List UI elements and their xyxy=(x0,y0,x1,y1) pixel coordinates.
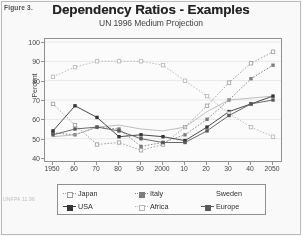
legend-item-italy[interactable]: Italy xyxy=(135,189,201,198)
legend-item-japan[interactable]: Japan xyxy=(63,189,135,198)
series-marker-italy xyxy=(249,77,252,80)
legend-marker xyxy=(139,205,145,211)
chart-subtitle: UN 1996 Medium Projection xyxy=(0,18,302,28)
series-marker-europe xyxy=(51,133,54,136)
series-marker-usa xyxy=(139,133,142,136)
series-marker-usa xyxy=(117,135,120,138)
x-tick-mark xyxy=(250,162,251,165)
y-tick-label: 60 xyxy=(32,116,40,123)
x-tick-label: 40 xyxy=(246,165,254,172)
series-marker-japan xyxy=(227,81,230,84)
legend-row-bottom: USAAfricaEurope xyxy=(63,200,260,213)
series-marker-italy xyxy=(183,133,186,136)
y-tick-mark xyxy=(41,42,44,43)
x-tick-mark xyxy=(162,162,163,165)
series-marker-africa xyxy=(95,60,98,63)
y-tick-label: 80 xyxy=(32,77,40,84)
x-tick-mark xyxy=(228,162,229,165)
x-tick-label: 2050 xyxy=(264,165,279,172)
x-tick-label: 80 xyxy=(114,165,122,172)
legend-marker xyxy=(67,192,73,198)
series-marker-japan xyxy=(73,123,76,126)
legend-item-europe[interactable]: Europe xyxy=(201,202,239,211)
y-tick-label: 90 xyxy=(32,58,40,65)
x-tick-label: 90 xyxy=(136,165,144,172)
series-marker-europe xyxy=(183,141,186,144)
legend-marker xyxy=(205,205,211,211)
chart-legend: JapanItalySweden USAAfricaEurope xyxy=(57,184,266,215)
x-tick-mark xyxy=(118,162,119,165)
legend-label: Sweden xyxy=(216,189,242,198)
legend-swatch-europe xyxy=(201,206,214,207)
series-marker-italy xyxy=(139,145,142,148)
legend-label: Japan xyxy=(78,189,98,198)
series-marker-japan xyxy=(249,62,252,65)
x-tick-label: 2000 xyxy=(154,165,169,172)
x-tick-mark xyxy=(206,162,207,165)
series-marker-europe xyxy=(205,129,208,132)
y-tick-label: 70 xyxy=(32,97,40,104)
legend-label: USA xyxy=(78,202,93,211)
y-tick-mark xyxy=(41,81,44,82)
y-tick-label: 100 xyxy=(28,39,40,46)
legend-swatch-japan xyxy=(63,193,76,194)
series-marker-africa xyxy=(205,94,208,97)
y-tick-label: 40 xyxy=(32,155,40,162)
series-marker-japan xyxy=(205,104,208,107)
legend-item-africa[interactable]: Africa xyxy=(135,202,201,211)
series-marker-usa xyxy=(73,104,76,107)
series-marker-africa xyxy=(73,65,76,68)
x-tick-label: 60 xyxy=(70,165,78,172)
series-marker-japan xyxy=(117,141,120,144)
series-marker-europe xyxy=(117,129,120,132)
series-marker-usa xyxy=(95,116,98,119)
series-marker-europe xyxy=(161,141,164,144)
plot-region xyxy=(44,38,282,162)
series-marker-africa xyxy=(51,75,54,78)
series-marker-europe xyxy=(95,125,98,128)
series-line-sweden xyxy=(53,96,273,137)
legend-label: Italy xyxy=(150,189,163,198)
x-tick-label: 30 xyxy=(224,165,232,172)
legend-item-sweden[interactable]: Sweden xyxy=(201,189,242,198)
plot-svg xyxy=(45,39,281,161)
x-tick-mark xyxy=(96,162,97,165)
y-tick-mark xyxy=(41,100,44,101)
legend-item-usa[interactable]: USA xyxy=(63,202,135,211)
y-tick-mark xyxy=(41,139,44,140)
series-marker-japan xyxy=(51,102,54,105)
series-marker-usa xyxy=(51,129,54,132)
series-marker-italy xyxy=(271,64,274,67)
chart-title: Dependency Ratios - Examples xyxy=(0,2,302,17)
series-marker-italy xyxy=(205,118,208,121)
series-marker-africa xyxy=(139,60,142,63)
series-marker-europe xyxy=(139,137,142,140)
legend-marker xyxy=(139,192,145,198)
series-marker-usa xyxy=(271,94,274,97)
series-marker-africa xyxy=(271,135,274,138)
series-marker-usa xyxy=(205,125,208,128)
series-marker-africa xyxy=(161,64,164,67)
x-tick-mark xyxy=(272,162,273,165)
y-tick-mark xyxy=(41,61,44,62)
legend-marker xyxy=(67,205,73,211)
legend-swatch-usa xyxy=(63,206,76,207)
legend-row-top: JapanItalySweden xyxy=(63,187,260,200)
series-marker-africa xyxy=(183,79,186,82)
y-tick-label: 50 xyxy=(32,135,40,142)
series-marker-japan xyxy=(139,149,142,152)
x-tick-mark xyxy=(52,162,53,165)
y-tick-mark xyxy=(41,158,44,159)
legend-swatch-africa xyxy=(135,206,148,207)
series-marker-japan xyxy=(95,143,98,146)
series-marker-japan xyxy=(271,50,274,53)
x-tick-mark xyxy=(74,162,75,165)
series-line-usa xyxy=(53,96,273,141)
legend-swatch-italy xyxy=(135,193,148,194)
x-tick-label: 70 xyxy=(92,165,100,172)
x-tick-label: 20 xyxy=(202,165,210,172)
x-tick-label: 10 xyxy=(180,165,188,172)
legend-label: Europe xyxy=(216,202,239,211)
legend-label: Africa xyxy=(150,202,168,211)
chart-area: Percent 405060708090100 1950607080902000… xyxy=(44,38,282,162)
